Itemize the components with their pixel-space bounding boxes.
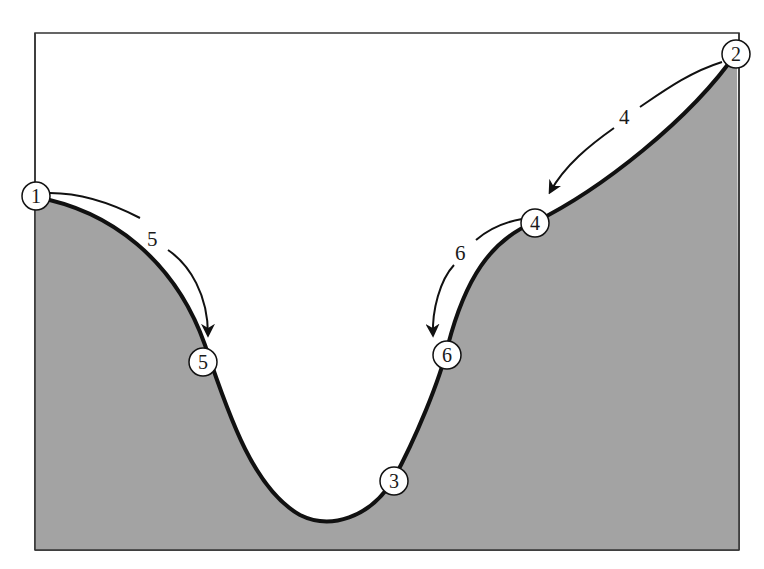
node-1: 1 — [22, 182, 50, 210]
node-4-label: 4 — [530, 212, 540, 234]
node-5: 5 — [189, 348, 217, 376]
node-3: 3 — [380, 467, 408, 495]
node-5-label: 5 — [198, 351, 208, 373]
node-6: 6 — [433, 341, 461, 369]
node-3-label: 3 — [389, 470, 399, 492]
transition-label-5: 5 — [147, 227, 158, 251]
node-4: 4 — [521, 209, 549, 237]
node-6-label: 6 — [442, 344, 452, 366]
node-2: 2 — [722, 40, 750, 68]
transition-label-6: 6 — [455, 241, 466, 265]
transition-label-4: 4 — [619, 105, 630, 129]
diagram-canvas: 5 4 6 1 2 3 4 5 6 — [0, 0, 764, 569]
node-1-label: 1 — [31, 185, 41, 207]
node-2-label: 2 — [731, 43, 741, 65]
